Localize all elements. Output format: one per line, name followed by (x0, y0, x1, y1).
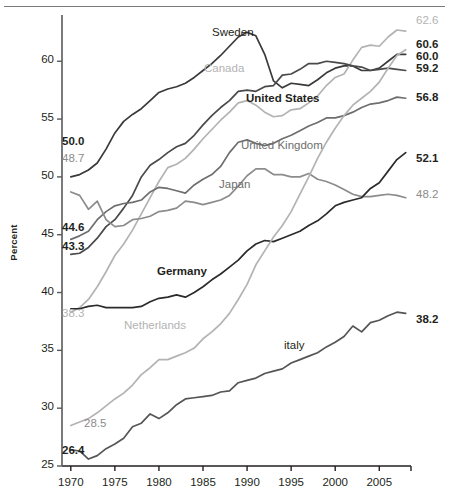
left-value-annotation: 48.7 (62, 152, 84, 164)
right-value-annotation: 38.2 (416, 313, 438, 325)
right-value-annotation: 59.2 (416, 62, 438, 74)
right-value-annotation: 60.6 (416, 38, 438, 50)
series-line-germany (71, 153, 406, 309)
series-line-sweden (71, 32, 406, 177)
y-tick-label: 25 (24, 458, 54, 470)
y-tick-label: 45 (24, 227, 54, 239)
series-label-sweden: Sweden (212, 26, 254, 38)
series-label-canada: Canada (204, 62, 244, 74)
right-value-annotation: 62.6 (416, 14, 438, 26)
right-value-annotation: 52.1 (416, 152, 438, 164)
series-label-united-kingdom: United Kingdom (241, 139, 323, 151)
x-tick-label: 1975 (91, 476, 139, 488)
y-tick-label: 35 (24, 342, 54, 354)
x-tick-label: 2000 (311, 476, 359, 488)
left-value-annotation: 50.0 (62, 135, 84, 147)
series-line-italy (71, 312, 406, 459)
x-tick-label: 1985 (179, 476, 227, 488)
series-line-netherlands (71, 50, 406, 426)
x-tick-label: 2005 (355, 476, 403, 488)
right-value-annotation: 48.2 (416, 188, 438, 200)
series-label-italy: italy (284, 339, 304, 351)
right-value-annotation: 60.0 (416, 50, 438, 62)
y-tick-label: 55 (24, 111, 54, 123)
series-label-germany: Germany (157, 265, 207, 277)
x-tick-label: 1970 (47, 476, 95, 488)
series-label-japan: Japan (219, 178, 250, 190)
y-tick-label: 40 (24, 285, 54, 297)
line-chart: Percent 25303540455055601970197519801985… (0, 0, 449, 501)
left-value-annotation: 43.3 (62, 240, 84, 252)
series-label-netherlands: Netherlands (124, 319, 186, 331)
right-value-annotation: 56.8 (416, 91, 438, 103)
y-tick-label: 50 (24, 169, 54, 181)
series-label-united-states: United States (246, 92, 320, 104)
x-tick-label: 1995 (267, 476, 315, 488)
left-value-annotation: 28.5 (84, 417, 106, 429)
y-tick-label: 60 (24, 53, 54, 65)
series-line-united-kingdom (71, 97, 406, 239)
left-value-annotation: 38.3 (62, 307, 84, 319)
left-value-annotation: 44.6 (62, 221, 84, 233)
x-tick-label: 1990 (223, 476, 271, 488)
left-value-annotation: 26.4 (62, 444, 84, 456)
x-tick-label: 1980 (135, 476, 183, 488)
y-tick-label: 30 (24, 400, 54, 412)
